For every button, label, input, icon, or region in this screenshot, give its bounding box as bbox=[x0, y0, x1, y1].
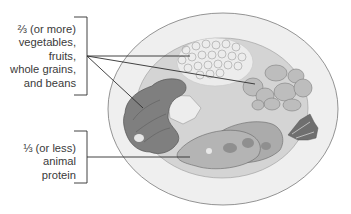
label-plant-foods-line3: fruits, bbox=[10, 50, 76, 63]
label-plant-foods-line2: vegetables, bbox=[10, 36, 76, 49]
grains bbox=[177, 38, 253, 86]
label-animal-protein-line1: ⅓ (or less) bbox=[23, 142, 76, 155]
label-animal-protein-line3: protein bbox=[23, 169, 76, 182]
label-plant-foods-line4: whole grains, bbox=[10, 63, 76, 76]
label-animal-protein: ⅓ (or less) animal protein bbox=[23, 142, 76, 182]
label-plant-foods-line1: ⅔ (or more) bbox=[10, 23, 76, 36]
label-plant-foods-line5: and beans bbox=[10, 77, 76, 90]
label-animal-protein-line2: animal bbox=[23, 155, 76, 168]
label-plant-foods: ⅔ (or more) vegetables, fruits, whole gr… bbox=[10, 23, 76, 90]
